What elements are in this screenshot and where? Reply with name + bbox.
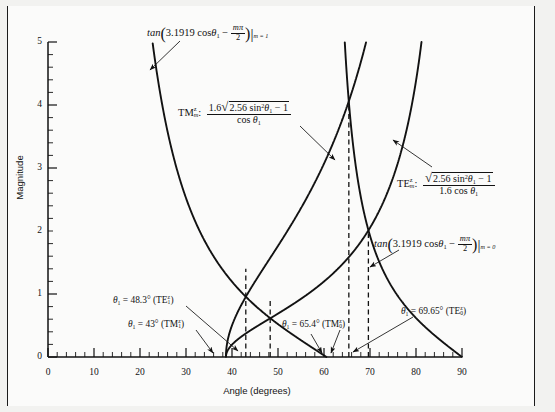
y-tick-label: 3 [24,162,42,172]
annotation-root-tm1: θ1 = 43° (TMz1) [128,319,184,330]
y-tick-label: 4 [24,99,42,109]
x-tick-label: 0 [37,367,59,377]
annotation-te-expression: TEzm: √2.56 sin2θ1 − 1 1.6 cos θ1 [397,171,495,197]
annotation-root-te0: θ1 = 69.65° (TEz0) [401,306,466,317]
x-tick-label: 70 [359,367,381,377]
x-tick-label: 60 [313,367,335,377]
axes [48,42,462,357]
x-tick-label: 30 [175,367,197,377]
annotation-tm-expression: TMzm: 1.6√2.56 sin2θ1 − 1 cos θ1 [178,100,291,126]
annotation-tan-m0: tan(3.1919 cosθ1 − mπ2)|m = 0 [374,235,495,254]
x-tick-label: 50 [267,367,289,377]
x-tick-label: 80 [405,367,427,377]
chart-canvas [0,0,555,412]
x-axis-label: Angle (degrees) [167,385,347,396]
y-tick-label: 0 [24,351,42,361]
y-tick-label: 2 [24,225,42,235]
x-tick-label: 10 [83,367,105,377]
annotation-root-te1: θ1 = 48.3° (TEz1) [113,295,174,306]
annotation-root-tm0: θ1 = 65.4° (TMz0) [282,319,345,330]
x-tick-label: 40 [221,367,243,377]
y-axis-label: Magnitude [14,138,25,218]
x-tick-label: 20 [129,367,151,377]
y-tick-label: 5 [24,36,42,46]
x-tick-label: 90 [451,367,473,377]
y-tick-label: 1 [24,288,42,298]
annotation-tan-m1: tan(3.1919 cosθ1 − mπ2)|m = 1 [147,24,268,43]
